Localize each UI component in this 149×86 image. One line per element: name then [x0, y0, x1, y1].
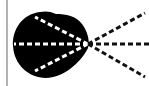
- outer-ray-upper: [88, 13, 145, 44]
- outer-rays-group: [88, 13, 149, 77]
- outer-ray-lower: [88, 44, 145, 77]
- radiation-pattern-diagram: [0, 0, 149, 86]
